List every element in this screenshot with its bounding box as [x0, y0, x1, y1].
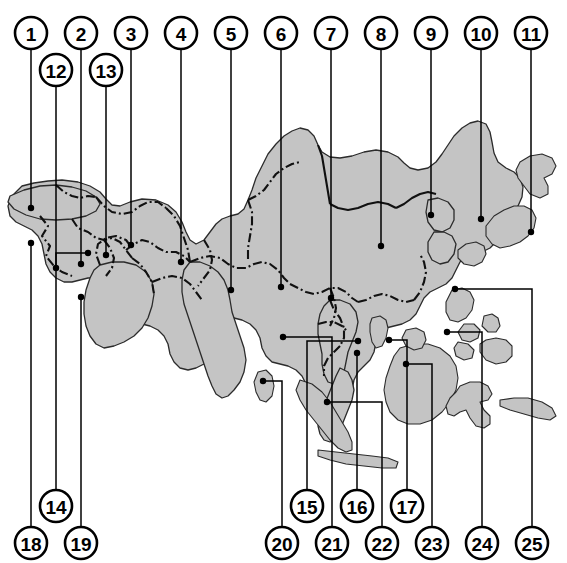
callout-marker-3[interactable]: 3: [115, 17, 147, 49]
callout-label-21: 21: [321, 534, 343, 555]
callout-label-6: 6: [276, 24, 287, 45]
leader-endpoint-dot-16: [354, 350, 360, 356]
leader-endpoint-dot-22: [324, 399, 330, 405]
callout-marker-1[interactable]: 1: [15, 17, 47, 49]
callout-marker-2[interactable]: 2: [65, 17, 97, 49]
leader-endpoint-dot-13: [103, 252, 109, 258]
callout-label-5: 5: [226, 24, 237, 45]
callout-marker-10[interactable]: 10: [465, 17, 497, 49]
callout-label-10: 10: [470, 24, 491, 45]
leader-endpoint-dot-9: [428, 212, 434, 218]
callout-label-17: 17: [396, 497, 417, 518]
leader-endpoint-dot-21: [280, 334, 286, 340]
leader-endpoint-dot-5: [228, 287, 234, 293]
leader-endpoint-dot-4: [178, 259, 184, 265]
leader-endpoint-dot-11: [528, 229, 534, 235]
callout-marker-17[interactable]: 17: [391, 490, 423, 522]
callout-label-15: 15: [296, 497, 318, 518]
callout-marker-12[interactable]: 12: [40, 54, 72, 86]
callout-label-16: 16: [346, 497, 367, 518]
callout-label-1: 1: [26, 24, 37, 45]
callout-label-24: 24: [471, 534, 493, 555]
callout-marker-14[interactable]: 14: [40, 490, 72, 522]
leader-endpoint-dot-14: [85, 250, 91, 256]
callout-label-23: 23: [421, 534, 442, 555]
callout-label-7: 7: [326, 24, 337, 45]
callout-marker-4[interactable]: 4: [165, 17, 197, 49]
callout-marker-13[interactable]: 13: [90, 54, 122, 86]
callout-marker-21[interactable]: 21: [316, 527, 348, 559]
leader-endpoint-dot-18: [28, 240, 34, 246]
callout-label-13: 13: [95, 61, 116, 82]
callout-label-8: 8: [376, 24, 387, 45]
leader-endpoint-dot-7: [328, 295, 334, 301]
callout-marker-19[interactable]: 19: [65, 527, 97, 559]
callout-marker-8[interactable]: 8: [365, 17, 397, 49]
map-canvas: 1234567891011121314151617181920212223242…: [0, 0, 567, 563]
callout-marker-9[interactable]: 9: [415, 17, 447, 49]
callout-label-20: 20: [271, 534, 292, 555]
callout-label-3: 3: [126, 24, 137, 45]
callout-label-14: 14: [45, 497, 67, 518]
callout-label-18: 18: [20, 534, 41, 555]
callout-marker-7[interactable]: 7: [315, 17, 347, 49]
callout-marker-6[interactable]: 6: [265, 17, 297, 49]
callout-label-9: 9: [426, 24, 437, 45]
callout-marker-23[interactable]: 23: [416, 527, 448, 559]
leader-endpoint-dot-8: [378, 243, 384, 249]
asia-reference-map: 1234567891011121314151617181920212223242…: [0, 0, 567, 563]
callout-label-19: 19: [70, 534, 91, 555]
leader-endpoint-dot-24: [444, 329, 450, 335]
leader-endpoint-dot-6: [278, 284, 284, 290]
callout-label-2: 2: [76, 24, 87, 45]
callout-marker-22[interactable]: 22: [366, 527, 398, 559]
callout-marker-16[interactable]: 16: [341, 490, 373, 522]
leader-endpoint-dot-23: [403, 361, 409, 367]
leader-endpoint-dot-15: [355, 338, 361, 344]
callout-marker-18[interactable]: 18: [15, 527, 47, 559]
leader-endpoint-dot-1: [28, 205, 34, 211]
callout-marker-25[interactable]: 25: [516, 527, 548, 559]
leader-endpoint-dot-20: [260, 378, 266, 384]
callout-label-22: 22: [371, 534, 392, 555]
leader-endpoint-dot-12: [53, 265, 59, 271]
callout-marker-20[interactable]: 20: [266, 527, 298, 559]
leader-endpoint-dot-2: [78, 261, 84, 267]
callout-marker-11[interactable]: 11: [515, 17, 547, 49]
callout-marker-15[interactable]: 15: [291, 490, 323, 522]
callout-label-4: 4: [176, 24, 187, 45]
leader-endpoint-dot-19: [78, 294, 84, 300]
leader-endpoint-dot-3: [128, 242, 134, 248]
callout-label-12: 12: [45, 61, 66, 82]
leader-endpoint-dot-10: [478, 216, 484, 222]
leader-endpoint-dot-25: [452, 286, 458, 292]
leader-endpoint-dot-17: [386, 337, 392, 343]
callout-marker-5[interactable]: 5: [215, 17, 247, 49]
callout-marker-24[interactable]: 24: [466, 527, 498, 559]
callout-label-11: 11: [521, 24, 542, 45]
callout-label-25: 25: [521, 534, 543, 555]
